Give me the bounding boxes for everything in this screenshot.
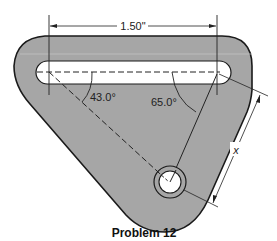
figure-caption: Problem 12 bbox=[112, 226, 177, 240]
angle-label-43: 43.0° bbox=[90, 91, 116, 103]
arrow-right-icon bbox=[209, 24, 216, 28]
arrow-up-icon bbox=[256, 95, 260, 103]
angle-label-65: 65.0° bbox=[151, 96, 177, 108]
x-dimension-label: x bbox=[232, 144, 239, 156]
arrow-down-icon bbox=[213, 195, 217, 203]
width-dimension-label: 1.50" bbox=[120, 20, 145, 32]
arrow-left-icon bbox=[50, 24, 57, 28]
problem-diagram: 1.50" 43.0° 65.0° x Problem 12 bbox=[0, 0, 277, 241]
